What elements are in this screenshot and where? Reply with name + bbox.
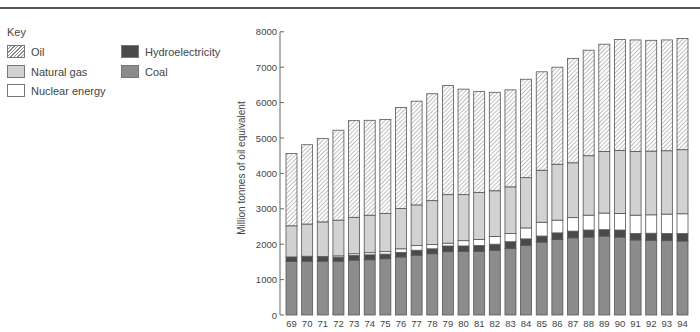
x-tick-label: 80 <box>458 318 469 329</box>
segment-natural-gas <box>317 222 328 257</box>
bar-74 <box>364 120 375 315</box>
segment-coal <box>599 236 610 315</box>
segment-coal <box>661 241 672 315</box>
segment-oil <box>380 120 391 214</box>
segment-natural-gas <box>552 164 563 220</box>
bar-70 <box>302 145 313 315</box>
bar-72 <box>333 130 344 315</box>
bar-71 <box>317 138 328 315</box>
x-tick-label: 79 <box>443 318 454 329</box>
segment-nuclear-energy <box>474 240 485 246</box>
segment-natural-gas <box>349 217 360 253</box>
segment-oil <box>442 86 453 195</box>
segment-nuclear-energy <box>677 214 688 234</box>
bars <box>286 39 688 315</box>
segment-natural-gas <box>583 156 594 215</box>
segment-hydroelectricity <box>349 256 360 261</box>
segment-natural-gas <box>380 213 391 251</box>
segment-hydroelectricity <box>364 255 375 260</box>
x-tick-label: 76 <box>396 318 407 329</box>
segment-hydroelectricity <box>614 230 625 237</box>
segment-nuclear-energy <box>536 222 547 236</box>
segment-coal <box>568 238 579 315</box>
segment-coal <box>521 245 532 315</box>
y-axis: 010002000300040005000600070008000 <box>256 26 284 320</box>
segment-oil <box>458 89 469 194</box>
segment-hydroelectricity <box>458 246 469 251</box>
x-tick-label: 71 <box>317 318 328 329</box>
y-tick-label: 0 <box>272 310 277 321</box>
segment-oil <box>646 40 657 151</box>
segment-hydroelectricity <box>427 249 438 254</box>
y-tick-label: 2000 <box>256 239 277 250</box>
segment-coal <box>536 242 547 315</box>
segment-natural-gas <box>333 220 344 256</box>
y-tick-label: 1000 <box>256 274 277 285</box>
segment-coal <box>458 251 469 315</box>
segment-natural-gas <box>411 205 422 246</box>
x-axis: 6970717273747576777879808182838485868788… <box>286 318 688 329</box>
segment-nuclear-energy <box>458 241 469 246</box>
bar-81 <box>474 92 485 315</box>
y-tick-label: 3000 <box>256 203 277 214</box>
segment-oil <box>286 154 297 226</box>
bar-84 <box>521 79 532 315</box>
segment-oil <box>333 130 344 220</box>
segment-nuclear-energy <box>442 243 453 246</box>
segment-oil <box>599 44 610 151</box>
segment-hydroelectricity <box>505 242 516 249</box>
bar-88 <box>583 50 594 315</box>
segment-nuclear-energy <box>427 245 438 249</box>
segment-hydroelectricity <box>442 246 453 252</box>
segment-oil <box>302 145 313 224</box>
segment-hydroelectricity <box>646 233 657 240</box>
segment-oil <box>521 79 532 177</box>
segment-natural-gas <box>286 226 297 257</box>
segment-oil <box>677 39 688 150</box>
segment-coal <box>286 262 297 315</box>
segment-nuclear-energy <box>661 214 672 233</box>
x-tick-label: 91 <box>630 318 641 329</box>
segment-natural-gas <box>646 151 657 215</box>
segment-natural-gas <box>661 151 672 214</box>
segment-coal <box>630 240 641 315</box>
segment-coal <box>349 260 360 315</box>
segment-oil <box>411 101 422 205</box>
segment-hydroelectricity <box>395 252 406 257</box>
segment-nuclear-energy <box>521 228 532 239</box>
segment-coal <box>380 259 391 315</box>
segment-natural-gas <box>458 195 469 241</box>
segment-hydroelectricity <box>333 257 344 261</box>
segment-oil <box>583 50 594 155</box>
x-tick-label: 84 <box>521 318 532 329</box>
segment-natural-gas <box>599 151 610 213</box>
segment-natural-gas <box>568 163 579 218</box>
segment-natural-gas <box>536 170 547 222</box>
bar-87 <box>568 58 579 315</box>
segment-nuclear-energy <box>505 234 516 242</box>
segment-oil <box>364 120 375 215</box>
bar-86 <box>552 67 563 315</box>
segment-oil <box>474 92 485 193</box>
bar-83 <box>505 90 516 315</box>
bar-85 <box>536 72 547 315</box>
segment-hydroelectricity <box>302 257 313 262</box>
bar-76 <box>395 108 406 315</box>
x-tick-label: 87 <box>568 318 579 329</box>
segment-hydroelectricity <box>536 236 547 242</box>
segment-oil <box>614 40 625 151</box>
x-tick-label: 89 <box>599 318 610 329</box>
segment-natural-gas <box>630 151 641 215</box>
segment-nuclear-energy <box>552 220 563 233</box>
bar-80 <box>458 89 469 315</box>
segment-oil <box>661 40 672 151</box>
segment-natural-gas <box>395 208 406 248</box>
segment-natural-gas <box>614 150 625 213</box>
bar-69 <box>286 154 297 315</box>
segment-coal <box>646 240 657 315</box>
y-tick-label: 8000 <box>256 26 277 37</box>
segment-hydroelectricity <box>630 234 641 240</box>
segment-hydroelectricity <box>552 233 563 240</box>
segment-hydroelectricity <box>474 246 485 252</box>
segment-hydroelectricity <box>380 254 391 259</box>
